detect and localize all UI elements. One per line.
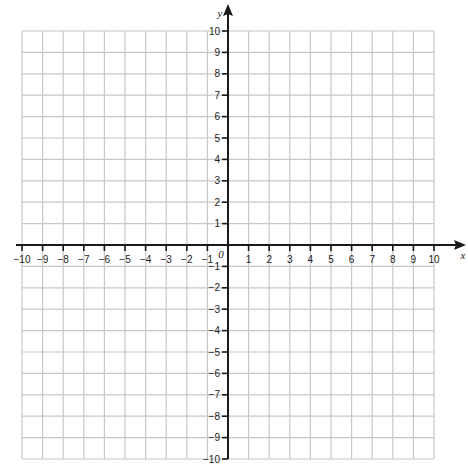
x-tick-label: −9 bbox=[37, 254, 49, 265]
x-tick-label: −7 bbox=[78, 254, 90, 265]
y-tick-label: 6 bbox=[214, 111, 220, 122]
x-tick-label: 8 bbox=[390, 254, 396, 265]
x-tick-label: 9 bbox=[411, 254, 417, 265]
x-tick-label: 7 bbox=[369, 254, 375, 265]
y-tick-label: 4 bbox=[214, 154, 220, 165]
y-tick-label: −2 bbox=[209, 282, 221, 293]
y-tick-label: 1 bbox=[214, 218, 220, 229]
x-tick-label: −10 bbox=[14, 254, 31, 265]
x-tick-label: −4 bbox=[140, 254, 152, 265]
y-tick-label: −5 bbox=[209, 347, 221, 358]
x-tick-label: −5 bbox=[119, 254, 131, 265]
x-tick-label: 6 bbox=[349, 254, 355, 265]
x-tick-label: −6 bbox=[99, 254, 111, 265]
y-tick-label: −9 bbox=[209, 432, 221, 443]
x-tick-label: 3 bbox=[287, 254, 293, 265]
y-tick-label: 8 bbox=[214, 68, 220, 79]
x-axis-label: x bbox=[460, 249, 466, 261]
x-tick-label: −3 bbox=[160, 254, 172, 265]
y-tick-label: −10 bbox=[203, 454, 220, 465]
y-tick-label: −7 bbox=[209, 389, 221, 400]
x-tick-label: −8 bbox=[57, 254, 69, 265]
origin-label: 0 bbox=[218, 248, 224, 260]
coordinate-plane: −10−9−8−7−6−5−4−3−2−11234567891010987654… bbox=[0, 0, 468, 468]
x-tick-label: 1 bbox=[246, 254, 252, 265]
y-tick-label: −4 bbox=[209, 325, 221, 336]
y-tick-label: 5 bbox=[214, 133, 220, 144]
tick-labels: −10−9−8−7−6−5−4−3−2−11234567891010987654… bbox=[14, 7, 466, 465]
y-tick-label: 3 bbox=[214, 175, 220, 186]
x-tick-label: 10 bbox=[428, 254, 440, 265]
y-tick-label: −8 bbox=[209, 411, 221, 422]
x-tick-label: 2 bbox=[266, 254, 272, 265]
y-tick-label: 2 bbox=[214, 197, 220, 208]
y-tick-label: 9 bbox=[214, 47, 220, 58]
y-axis-label: y bbox=[217, 7, 223, 19]
x-tick-label: 5 bbox=[328, 254, 334, 265]
x-tick-label: −2 bbox=[181, 254, 193, 265]
y-tick-label: −1 bbox=[209, 261, 221, 272]
y-tick-label: 7 bbox=[214, 90, 220, 101]
y-tick-label: 10 bbox=[209, 26, 221, 37]
y-tick-label: −6 bbox=[209, 368, 221, 379]
y-tick-label: −3 bbox=[209, 304, 221, 315]
x-tick-label: 4 bbox=[308, 254, 314, 265]
